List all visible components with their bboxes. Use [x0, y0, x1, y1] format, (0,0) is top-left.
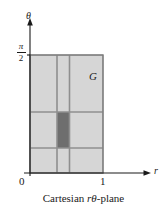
y-axis-tick-label-pi-over-2: π 2	[14, 42, 28, 63]
caption-math-symbols: rθ	[87, 192, 97, 204]
r-axis-label: r	[154, 166, 158, 176]
origin-tick-label: 0	[19, 176, 25, 187]
plot-canvas	[0, 0, 167, 216]
r-axis-arrowhead	[144, 170, 152, 176]
region-g-label: G	[89, 71, 97, 82]
pi-numerator: π	[14, 42, 28, 52]
theta-axis-label: θ	[26, 11, 31, 21]
figure-caption: Cartesian rθ-plane	[0, 192, 167, 204]
highlighted-subrectangle	[57, 112, 70, 148]
cartesian-r-theta-plane-figure: θ r G 0 1 π 2 Cartesian rθ-plane	[0, 0, 167, 216]
two-denominator: 2	[14, 53, 28, 63]
caption-prefix: Cartesian	[43, 192, 87, 204]
caption-suffix: -plane	[97, 192, 124, 204]
x-axis-tick-label-1: 1	[100, 176, 106, 187]
